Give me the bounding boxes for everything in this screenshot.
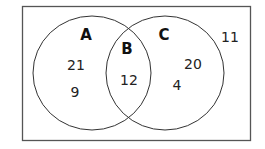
a-only-value-1: 21 bbox=[67, 57, 85, 73]
set-c-label: C bbox=[158, 26, 169, 44]
set-a-label: A bbox=[80, 26, 92, 44]
c-only-value-1: 20 bbox=[184, 56, 202, 72]
c-only-value-2: 4 bbox=[173, 77, 182, 93]
outside-value: 11 bbox=[221, 29, 239, 45]
intersection-value: 12 bbox=[120, 72, 138, 88]
venn-diagram: A B C 21 9 12 20 4 11 bbox=[0, 0, 265, 149]
intersection-b-label: B bbox=[121, 40, 132, 58]
a-only-value-2: 9 bbox=[71, 84, 80, 100]
